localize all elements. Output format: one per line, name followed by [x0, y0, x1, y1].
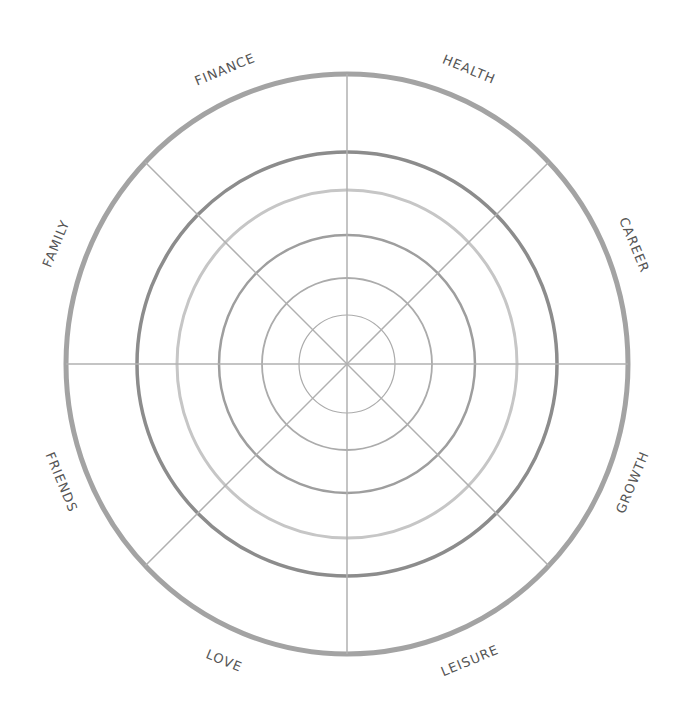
segment-label-family: FAMILY: [40, 218, 73, 270]
segment-label-finance: FINANCE: [193, 50, 258, 88]
segment-label-love: LOVE: [204, 646, 245, 674]
segment-label-health: HEALTH: [440, 52, 498, 87]
segment-label-leisure: LEISURE: [439, 642, 501, 679]
segment-label-career: CAREER: [616, 215, 652, 275]
segment-label-growth: GROWTH: [613, 449, 652, 516]
segment-label-friends: FRIENDS: [42, 450, 80, 514]
life-wheel-diagram: HEALTHCAREERGROWTHLEISURELOVEFRIENDSFAMI…: [0, 0, 684, 715]
segment-spokes: [66, 74, 628, 654]
